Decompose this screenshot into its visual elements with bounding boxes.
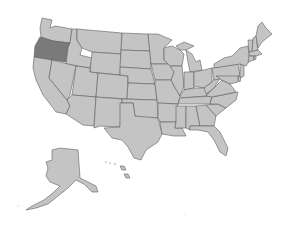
state-alaska[interactable] (26, 148, 98, 210)
state-hawaii[interactable] (120, 166, 130, 178)
state-connecticut[interactable] (248, 56, 254, 62)
state-maine[interactable] (256, 22, 272, 48)
state-arizona[interactable] (66, 95, 96, 126)
state-michigan[interactable] (186, 50, 202, 72)
us-state-map (0, 0, 288, 230)
state-new-mexico[interactable] (94, 97, 122, 128)
hawaii-island (109, 162, 111, 164)
hawaii-island (114, 163, 116, 165)
state-montana[interactable] (77, 29, 122, 54)
state-new-jersey[interactable] (240, 64, 244, 78)
state-indiana[interactable] (184, 72, 194, 90)
state-north-dakota[interactable] (121, 33, 150, 51)
state-michigan-up[interactable] (176, 42, 194, 50)
state-wyoming[interactable] (90, 52, 121, 75)
stray-dot (184, 213, 185, 214)
state-florida[interactable] (190, 126, 228, 156)
state-arkansas[interactable] (158, 103, 178, 122)
state-rhode-island[interactable] (254, 56, 256, 60)
state-south-dakota[interactable] (120, 50, 151, 69)
state-mississippi[interactable] (175, 106, 186, 128)
state-delaware[interactable] (238, 76, 241, 82)
state-kansas[interactable] (127, 83, 157, 100)
hawaii-island (105, 161, 107, 163)
aleutian-islands (17, 205, 18, 206)
state-new-york[interactable] (214, 46, 250, 68)
state-colorado[interactable] (96, 73, 128, 99)
